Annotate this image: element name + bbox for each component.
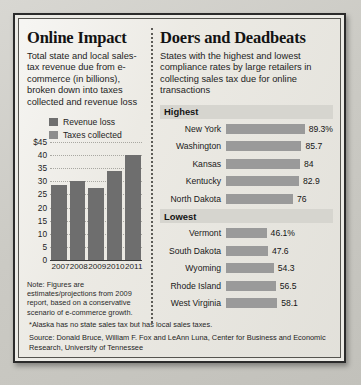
rank-row: Kansas84 (160, 157, 333, 171)
infographic-paper: Online Impact Total state and local sale… (19, 19, 340, 357)
bar-revenue-loss (107, 171, 123, 260)
rank-state-name: West Virginia (160, 298, 226, 308)
rank-bar (226, 281, 276, 291)
y-axis-tick-label: 10 (38, 229, 47, 239)
bar-group (70, 142, 86, 260)
rank-value-label: 58.1 (281, 298, 298, 308)
right-panel-description: States with the highest and lowest compl… (160, 51, 318, 97)
lowest-ranking-list: Vermont46.1%South Dakota47.6Wyoming54.3R… (160, 226, 333, 310)
y-axis-tick-label: 20 (38, 203, 47, 213)
rank-value-label: 76 (297, 194, 307, 204)
rank-bar-area: 46.1% (226, 228, 333, 238)
plot-area (50, 142, 142, 261)
section-header-lowest: Lowest (160, 209, 333, 223)
y-axis-tick-label: 35 (38, 163, 47, 173)
y-axis-tick-label: 25 (38, 189, 47, 199)
rank-bar (226, 194, 293, 204)
rank-state-name: North Dakota (160, 194, 226, 204)
bar-series (50, 142, 142, 260)
chart-legend: Revenue loss Taxes collected (49, 116, 144, 140)
rank-state-name: Washington (160, 141, 226, 151)
footer: *Alaska has no state sales tax but has l… (29, 320, 332, 352)
rank-bar-area: 47.6 (226, 246, 333, 256)
highest-ranking-list: New York89.3%Washington85.7Kansas84Kentu… (160, 122, 333, 206)
rank-row: Wyoming54.3 (160, 261, 333, 275)
legend-swatch-icon-taxes-collected (49, 131, 58, 139)
infographic-frame-inner: Online Impact Total state and local sale… (18, 18, 341, 358)
bar-revenue-loss (70, 181, 86, 260)
chart-note: Note: Figures are estimates/projections … (27, 280, 144, 317)
y-axis-tick-label: $45 (33, 137, 47, 147)
x-axis-tick-label: 2007 (51, 262, 67, 271)
bar-group (125, 142, 141, 260)
rank-value-label: 56.5 (280, 281, 297, 291)
footnote-alaska: *Alaska has no state sales tax but has l… (29, 320, 332, 329)
y-axis: $454035302520151050 (27, 142, 47, 260)
bar-chart: $454035302520151050 20072008200920102011 (27, 142, 144, 274)
rank-row: North Dakota76 (160, 192, 333, 206)
rank-row: Vermont46.1% (160, 226, 333, 240)
rank-state-name: Kansas (160, 159, 226, 169)
y-axis-tick-label: 30 (38, 176, 47, 186)
bar-revenue-loss (51, 185, 67, 260)
rank-bar-area: 56.5 (226, 281, 333, 291)
rank-row: Washington85.7 (160, 139, 333, 153)
right-panel-title: Doers and Deadbeats (160, 28, 333, 48)
rank-state-name: Rhode Island (160, 281, 226, 291)
infographic-page: Online Impact Total state and local sale… (0, 0, 361, 385)
x-axis-tick-label: 2008 (70, 262, 86, 271)
rank-bar (226, 159, 300, 169)
infographic-frame: Online Impact Total state and local sale… (13, 13, 346, 363)
rank-state-name: Vermont (160, 228, 226, 238)
rank-bar (226, 298, 277, 308)
y-axis-tick-label: 15 (38, 216, 47, 226)
rank-state-name: New York (160, 124, 226, 134)
rank-state-name: South Dakota (160, 246, 226, 256)
left-panel-title: Online Impact (27, 28, 144, 48)
rank-value-label: 89.3% (309, 124, 333, 134)
rank-bar-area: 76 (226, 194, 333, 204)
bar-revenue-loss (88, 188, 104, 260)
rank-row: Rhode Island56.5 (160, 279, 333, 293)
legend-swatch-icon-revenue-loss (49, 118, 58, 126)
rank-row: Kentucky82.9 (160, 174, 333, 188)
rank-value-label: 47.6 (272, 246, 289, 256)
rank-value-label: 82.9 (303, 176, 320, 186)
y-axis-tick-label: 0 (42, 255, 47, 265)
rank-bar (226, 228, 267, 238)
rank-bar (226, 246, 268, 256)
rank-bar (226, 141, 301, 151)
x-axis-tick-label: 2009 (88, 262, 104, 271)
x-axis-tick-label: 2010 (107, 262, 123, 271)
rank-bar (226, 263, 274, 273)
rank-bar (226, 124, 305, 134)
x-axis-tick-label: 2011 (125, 262, 141, 271)
bar-group (51, 142, 67, 260)
rank-value-label: 85.7 (305, 141, 322, 151)
legend-item-taxes-collected: Taxes collected (49, 129, 144, 140)
bar-revenue-loss (125, 155, 141, 260)
online-impact-panel: Online Impact Total state and local sale… (27, 26, 144, 353)
left-panel-description: Total state and local sales-tax revenue … (27, 51, 144, 108)
y-axis-tick-label: 5 (42, 242, 47, 252)
bar-group (88, 142, 104, 260)
rank-value-label: 54.3 (278, 263, 295, 273)
bar-group (107, 142, 123, 260)
rank-bar-area: 84 (226, 159, 333, 169)
source-credit: Source: Donald Bruce, William F. Fox and… (29, 333, 332, 352)
section-header-highest: Highest (160, 105, 333, 119)
panels-container: Online Impact Total state and local sale… (27, 26, 333, 353)
legend-label-revenue-loss: Revenue loss (63, 117, 115, 127)
rank-value-label: 46.1% (271, 228, 295, 238)
rank-row: South Dakota47.6 (160, 244, 333, 258)
rank-state-name: Kentucky (160, 176, 226, 186)
rank-row: West Virginia58.1 (160, 296, 333, 310)
y-axis-tick-label: 40 (38, 150, 47, 160)
rank-value-label: 84 (304, 159, 314, 169)
rank-bar-area: 89.3% (226, 124, 333, 134)
rank-bar-area: 82.9 (226, 176, 333, 186)
rank-bar-area: 58.1 (226, 298, 333, 308)
doers-deadbeats-panel: Doers and Deadbeats States with the high… (160, 26, 333, 353)
x-axis: 20072008200920102011 (50, 262, 142, 271)
rank-bar-area: 54.3 (226, 263, 333, 273)
